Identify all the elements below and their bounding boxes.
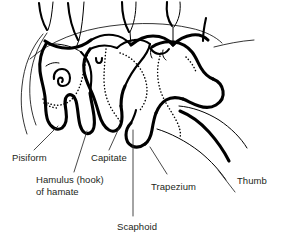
metacarpal-shaft-4 <box>167 2 172 26</box>
leader-pisiform <box>34 126 58 150</box>
ulnar-skin-contour <box>21 34 43 134</box>
capitate-hidden-contour <box>104 49 120 121</box>
capitate-proximal-border <box>90 46 117 49</box>
thenar-contour <box>157 129 226 180</box>
metacarpal-shaft-1b <box>48 2 53 30</box>
trapezium-proximal-border <box>131 110 136 123</box>
thumb-group <box>157 106 247 180</box>
trapezium-dorsal-border <box>183 79 223 107</box>
capitate-outline <box>84 49 122 131</box>
capitate-radial-border <box>121 86 125 106</box>
leader-lines-group <box>34 126 235 216</box>
capitate-notch <box>96 58 102 63</box>
label-trapezium: Trapezium <box>151 181 196 193</box>
metacarpal-shaft-3 <box>122 2 129 32</box>
metacarpal-shaft-3b <box>130 2 136 32</box>
lunate-hidden-contour <box>158 53 166 103</box>
label-capitate: Capitate <box>91 152 127 164</box>
label-thumb: Thumb <box>237 175 267 187</box>
label-hamulus-line2: of hamate <box>36 186 79 197</box>
trapezium-inferior-border <box>145 113 156 144</box>
trapezoid-hidden-contour <box>186 57 196 72</box>
trapezoid-outline <box>152 42 213 79</box>
carpal-bones-drawing <box>0 0 287 246</box>
label-scaphoid: Scaphoid <box>117 221 157 233</box>
label-hamulus-of-hamate: Hamulus (hook) of hamate <box>36 174 126 197</box>
metacarpal-shaft-2b <box>79 2 84 40</box>
trapezium-tubercle <box>126 123 145 147</box>
scaphoid-trapezium-notch <box>150 48 169 54</box>
capitate-head-dorsal <box>125 44 150 86</box>
metacarpal-shaft-1 <box>39 3 47 30</box>
leader-hamulus <box>74 131 87 172</box>
leader-thumb <box>218 170 235 192</box>
hamate-articular-notch <box>46 63 59 66</box>
leader-trapezium <box>150 147 167 174</box>
metacarpal-shaft-4b <box>174 2 180 27</box>
thumb-skin-web <box>179 106 247 148</box>
capitate-head-hidden <box>120 53 147 110</box>
label-pisiform: Pisiform <box>12 152 47 164</box>
thumb-metacarpal-dorsal <box>180 111 229 161</box>
hamulus-hook-spiral <box>54 69 70 86</box>
anatomical-figure: Pisiform Hamulus (hook) of hamate Capita… <box>0 0 287 246</box>
label-hamulus-line1: Hamulus (hook) <box>36 174 104 185</box>
metacarpal-shafts-group <box>39 2 206 41</box>
